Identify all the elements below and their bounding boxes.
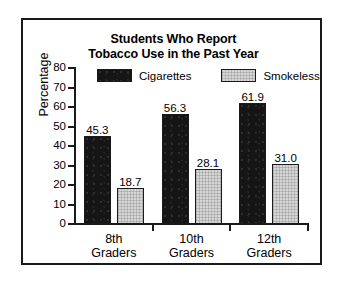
y-axis-tick-label: 70 (22, 82, 66, 94)
chart-figure-frame: Students Who Report Tobacco Use in the P… (21, 18, 322, 265)
legend-label-smokeless: Smokeless (263, 70, 319, 82)
y-axis-tick-label: 60 (22, 101, 66, 113)
y-axis-tick-label: 30 (22, 160, 66, 172)
y-axis-tick (68, 204, 75, 206)
chart-legend: Cigarettes Smokeless (97, 69, 320, 82)
bar-smokeless-8th-graders: 18.7 (117, 188, 144, 224)
y-axis-tick (68, 87, 75, 89)
x-axis-tick (307, 225, 309, 231)
y-axis-tick-label: 0 (22, 218, 66, 230)
bar-value-label: 18.7 (119, 176, 141, 188)
plot-area: 45.318.756.328.161.931.0 (75, 68, 308, 224)
chart-title: Students Who Report Tobacco Use in the P… (23, 32, 324, 62)
y-axis-tick-label: 20 (22, 179, 66, 191)
legend-swatch-cigarettes-icon (97, 69, 132, 82)
y-axis-tick-label: 10 (22, 199, 66, 211)
y-axis-tick-label: 80 (22, 62, 66, 74)
bar-cigarettes-8th-graders: 45.3 (84, 136, 111, 224)
bar-smokeless-12th-graders: 31.0 (272, 164, 299, 224)
bar-value-label: 45.3 (86, 124, 108, 136)
bar-value-label: 56.3 (164, 102, 186, 114)
y-axis-tick (68, 106, 75, 108)
bar-value-label: 61.9 (241, 91, 263, 103)
x-axis-tick (229, 225, 231, 231)
y-axis-tick-label: 40 (22, 140, 66, 152)
legend-entry-smokeless[interactable]: Smokeless (221, 69, 319, 82)
legend-swatch-smokeless-icon (221, 69, 256, 82)
bar-value-label: 28.1 (197, 157, 219, 169)
y-axis-tick (68, 67, 75, 69)
chart-title-line-2: Tobacco Use in the Past Year (23, 47, 324, 62)
bar-cigarettes-12th-graders: 61.9 (239, 103, 266, 224)
y-axis-tick (68, 184, 75, 186)
legend-label-cigarettes: Cigarettes (139, 70, 191, 82)
bar-value-label: 31.0 (274, 152, 296, 164)
x-axis-category-label-line: 12th (219, 232, 319, 246)
y-axis-tick (68, 126, 75, 128)
legend-entry-cigarettes[interactable]: Cigarettes (97, 69, 191, 82)
y-axis-tick-label: 50 (22, 121, 66, 133)
x-axis-category-label: 12thGraders (219, 232, 319, 260)
y-axis-tick (68, 165, 75, 167)
bar-smokeless-10th-graders: 28.1 (195, 169, 222, 224)
chart-title-line-1: Students Who Report (23, 32, 324, 47)
x-axis-tick (152, 225, 154, 231)
bar-cigarettes-10th-graders: 56.3 (162, 114, 189, 224)
x-axis-category-label-line: Graders (219, 246, 319, 260)
y-axis-tick (68, 145, 75, 147)
y-axis-tick (68, 223, 75, 225)
